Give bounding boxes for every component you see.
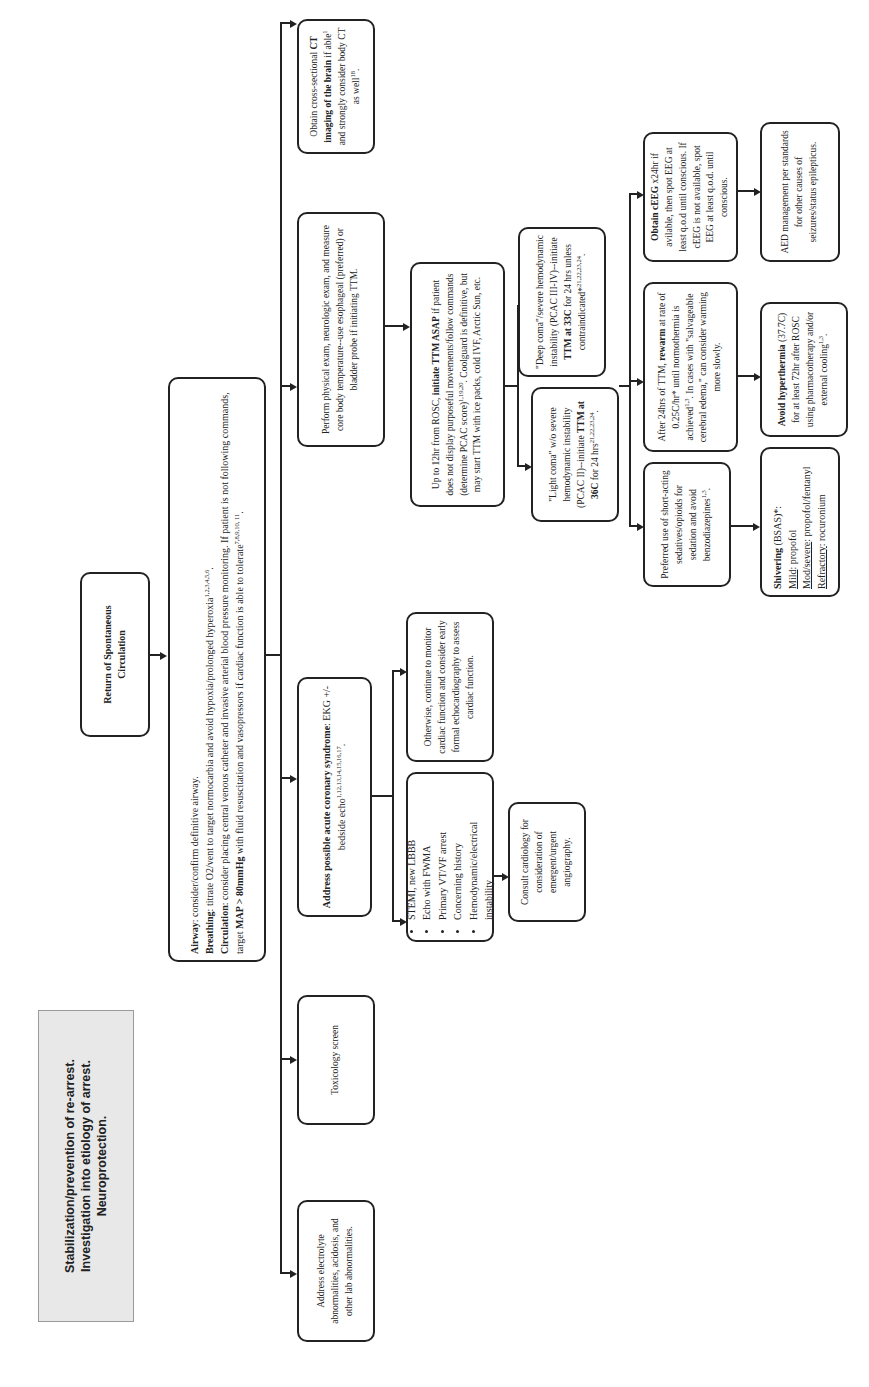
avoid-hyperthermia-node: Avoid hyperthermia (37.7C) for at least … [760, 302, 848, 437]
ttm-text-1: Up to 12hr from ROSC, [431, 395, 441, 489]
circulation-refs: 7,8,9,10, 11 [233, 514, 240, 545]
rewarm-bold: rewarm [657, 329, 667, 361]
acs-refs: 1,12,13,14,15,16,17 [334, 746, 341, 798]
light-coma-text-2: for 24 hrs [590, 443, 600, 482]
ct-imaging-node: Obtain cross-sectional CT imaging of the… [297, 19, 375, 154]
breathing-label: Breathing [204, 911, 215, 954]
ct-text-3: and strongly consider body CT as well [337, 28, 361, 146]
arrow-head-icon [160, 652, 167, 660]
acs-bold: Address possible acute coronary syndrome [321, 726, 332, 908]
indication-item: Echo with FWMA [419, 780, 435, 920]
rewarm-refs: 1,3 [682, 399, 689, 407]
connector [392, 672, 394, 922]
airway-breathing-circulation-node: Airway: consider/confirm definitive airw… [168, 377, 266, 962]
connector [385, 326, 405, 328]
toxicology-node: Toxicology screen [297, 995, 375, 1125]
indication-item: Hemodynamic/electrical instability [466, 780, 497, 920]
rosc-node: Return of Spontaneous Circulation [80, 572, 150, 737]
header-line-3: Neuroprotection. [94, 1059, 110, 1273]
acute-coronary-syndrome-node: Address possible acute coronary syndrome… [297, 677, 372, 917]
arrow-head-icon [290, 775, 297, 783]
deep-coma-node: "Deep coma"/severe hemodynamic instabili… [518, 227, 606, 377]
aed-management-node: AED management per standards for other c… [760, 122, 840, 262]
deep-coma-refs: 21,22,23,24 [575, 256, 582, 287]
shivering-refractory-text: : rocuronium [816, 494, 827, 546]
shivering-mod-label: Mod/severe [801, 542, 812, 589]
acs-indications-node: STEMI, new LBBB Echo with FWMA Primary V… [406, 772, 494, 942]
arrow-head-icon [290, 20, 297, 28]
rewarm-node: After 24hrs of TTM, rewarm at rate of 0.… [643, 282, 738, 452]
ttm-refs: 1,19,20 [456, 382, 463, 402]
indication-item: Concerning history [450, 780, 466, 920]
toxicology-text: Toxicology screen [329, 1003, 343, 1117]
header-summary-box: Stabilization/prevention of re-arrest. I… [38, 1010, 134, 1322]
ct-text-1: Obtain cross-sectional [309, 50, 319, 137]
arrow-head-icon [290, 383, 297, 391]
deep-coma-bold: TTM at 33C [563, 309, 573, 360]
shivering-text: (BSAS)*: [772, 506, 783, 548]
connector [731, 526, 755, 528]
arrow-head-icon [290, 1270, 297, 1278]
breathing-refs: 1,2,3,4,5,6 [203, 570, 210, 598]
sedation-node: Preferred use of short-acting sedatives/… [643, 462, 731, 587]
physical-exam-node: Perform physical exam, neurologic exam, … [297, 212, 385, 447]
shivering-mod-text: : propofol/fentanyl [801, 467, 812, 542]
arrow-head-icon [403, 323, 410, 331]
exam-text: Perform physical exam, neurologic exam, … [320, 220, 361, 439]
indications-list: STEMI, new LBBB Echo with FWMA Primary V… [404, 780, 497, 934]
rewarm-text-1: After 24hrs of TTM, [657, 361, 667, 442]
sedation-refs: 1,3 [700, 490, 707, 498]
aed-text: AED management per standards for other c… [779, 130, 820, 254]
electrolyte-text: Address electrolyte abnormalities, acido… [315, 1208, 356, 1334]
airway-text: : consider/confirm definitive airway. [189, 776, 200, 922]
hyperthermia-bold: Avoid hyperthermia [777, 344, 787, 426]
consult-cardiology-node: Consult cardiology for consideration of … [508, 802, 586, 922]
connector [505, 386, 517, 388]
shivering-node: Shivering (BSAS)*: Mild: propofol Mod/se… [760, 447, 840, 597]
ct-ref-2: 18 [349, 71, 356, 78]
shivering-mild-label: Mild [787, 570, 798, 589]
shivering-bold: Shivering [772, 548, 783, 589]
sedation-text: Preferred use of short-acting sedatives/… [660, 470, 711, 578]
arrow-head-icon [753, 523, 760, 531]
circulation-label: Circulation [219, 905, 230, 954]
flowchart-canvas: Stabilization/prevention of re-arrest. I… [0, 0, 869, 1387]
electrolyte-node: Address electrolyte abnormalities, acido… [297, 1200, 375, 1342]
branch-bus [280, 24, 282, 1274]
connector [619, 386, 629, 388]
eeg-bold: Obtain cEEG [650, 186, 660, 241]
monitor-cardiac-node: Otherwise, continue to monitor cardiac f… [406, 612, 494, 762]
indication-item: Primary VT/VF arrest [435, 780, 451, 920]
ttm-bold: initiate TTM ASAP [431, 316, 441, 395]
monitor-cardiac-text: Otherwise, continue to monitor cardiac f… [422, 620, 477, 754]
light-coma-node: "Light coma" w/o severe hemodynamic inst… [531, 387, 619, 522]
connector [266, 655, 280, 657]
shivering-refractory-label: Refractory [816, 546, 827, 589]
header-line-1: Stabilization/prevention of re-arrest. [62, 1059, 78, 1273]
ct-text-2: if able [323, 34, 333, 60]
connector [372, 796, 392, 798]
header-line-2: Investigation into etiology of arrest. [78, 1059, 94, 1273]
arrow-head-icon [290, 1056, 297, 1064]
eeg-text: x24hr if avilable, then spot EEG at leas… [650, 142, 729, 252]
initiate-ttm-node: Up to 12hr from ROSC, initiate TTM ASAP … [410, 262, 505, 507]
deep-coma-text-1: "Deep coma"/severe hemodynamic instabili… [535, 235, 559, 369]
breathing-text: : titrate O2/vent to target normocarbia … [204, 597, 215, 911]
light-coma-refs: 21,22,23,24 [588, 412, 595, 443]
ceeg-node: Obtain cEEG x24hr if avilable, then spot… [643, 132, 738, 262]
circulation-text-2: with fluid resuscitation and vasopressor… [234, 544, 245, 856]
ct-ref-1: 1 [321, 30, 328, 33]
consult-cardiology-text: Consult cardiology for consideration of … [519, 810, 574, 914]
shivering-mild-text: : propofol [787, 530, 798, 570]
indication-item: STEMI, new LBBB [404, 780, 420, 920]
hyperthermia-refs: 1,3 [817, 336, 824, 344]
airway-label: Airway [189, 922, 200, 954]
map-target: MAP > 80mmHg [234, 857, 245, 929]
connector [629, 195, 631, 527]
rosc-label: Return of Spontaneous Circulation [101, 580, 130, 729]
